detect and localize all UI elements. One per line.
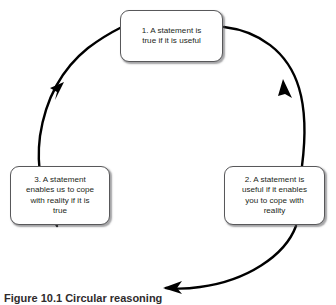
cycle-node-3-label: 3. A statement enables us to cope with r… (26, 175, 94, 216)
cycle-node-2-label: 2. A statement is useful if it enables y… (242, 175, 307, 216)
arc-node1-to-node2 (224, 27, 304, 166)
cycle-node-1-label: 1. A statement is true if it is useful (142, 26, 202, 46)
cycle-node-1: 1. A statement is true if it is useful (120, 10, 223, 62)
arrowhead-node1-to-node2 (278, 79, 292, 98)
figure-caption: Figure 10.1 Circular reasoning (4, 292, 234, 305)
arc-node2-to-node3 (166, 226, 296, 289)
cycle-node-3: 3. A statement enables us to cope with r… (10, 166, 110, 225)
cycle-node-2: 2. A statement is useful if it enables y… (224, 166, 325, 225)
